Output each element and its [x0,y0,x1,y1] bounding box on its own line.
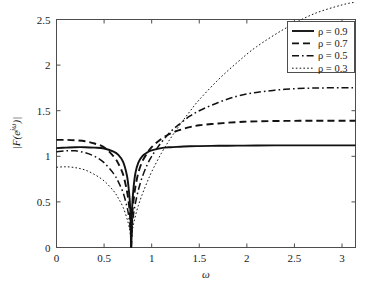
legend-label: ρ = 0.7 [318,38,348,49]
x-tick-label: 3 [339,252,345,264]
x-tick-label: 1 [149,252,155,264]
x-tick-label: 1.5 [192,252,206,264]
x-tick-label: 2 [244,252,250,264]
x-tick-label: 0.5 [97,252,111,264]
x-axis-title: ω [202,268,210,280]
y-tick-label: 2 [45,59,51,71]
y-tick-label: 0.5 [37,196,51,208]
legend: ρ = 0.9ρ = 0.7ρ = 0.5ρ = 0.3 [288,22,355,74]
legend-label: ρ = 0.5 [318,50,348,61]
legend-label: ρ = 0.9 [318,26,348,37]
x-tick-label: 0 [54,252,60,264]
x-tick-label: 2.5 [288,252,302,264]
y-axis-title: |F(ejω)| [9,117,23,149]
y-title-bar-right: | [10,117,22,120]
legend-label: ρ = 0.3 [318,63,348,74]
y-tick-label: 0 [45,242,51,254]
y-tick-label: 1.5 [37,105,51,117]
svg-text:|F(ejω)|: |F(ejω)| [9,117,23,149]
magnitude-response-plot: 00.511.522.53 00.511.522.5 ω |F(ejω)| ρ … [0,0,378,292]
figure-container: 00.511.522.53 00.511.522.5 ω |F(ejω)| ρ … [0,0,378,292]
y-title-exponent: jω [9,123,18,131]
y-tick-label: 2.5 [37,14,51,26]
y-tick-label: 1 [45,150,51,162]
